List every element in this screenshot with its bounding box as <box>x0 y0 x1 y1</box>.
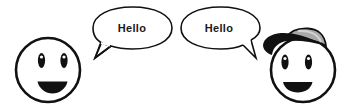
right-face-outline <box>271 38 335 102</box>
left-eye-icon <box>38 53 45 68</box>
right-eye-icon <box>305 55 312 70</box>
right-smiley-face <box>263 28 335 102</box>
right-speech-bubble: Hello <box>181 7 260 58</box>
right-bubble-text: Hello <box>205 22 233 34</box>
left-eye-icon <box>281 55 288 70</box>
right-eye-icon <box>60 53 67 68</box>
left-speech-bubble: Hello <box>93 7 172 58</box>
left-smiley-face <box>16 38 80 102</box>
left-bubble-text: Hello <box>118 22 146 34</box>
conversation-scene: Hello Hello <box>0 0 352 109</box>
